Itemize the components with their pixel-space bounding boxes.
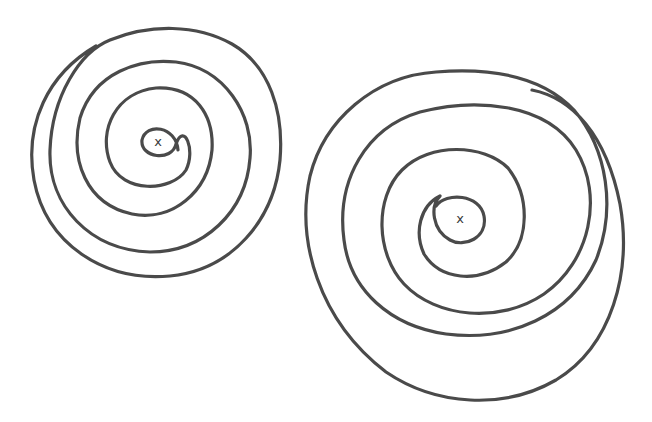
left-spiral: x: [32, 28, 281, 276]
right-spiral-path: [306, 71, 623, 400]
right-center-x-mark: x: [456, 211, 464, 226]
left-spiral-path: [32, 28, 281, 276]
spirals-diagram: x x: [0, 0, 652, 422]
left-center-x-mark: x: [154, 134, 162, 149]
right-spiral: x: [306, 71, 623, 400]
